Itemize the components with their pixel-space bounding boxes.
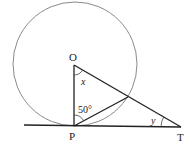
- label-O: O: [69, 51, 77, 63]
- label-angle-y: y: [150, 115, 156, 126]
- angle-arc-50: [74, 115, 84, 121]
- label-P: P: [69, 130, 75, 142]
- angle-arc-x: [74, 70, 83, 75]
- angle-arc-y: [161, 117, 164, 127]
- label-angle-50: 50°: [78, 104, 92, 115]
- label-angle-x: x: [80, 76, 86, 87]
- label-T: T: [177, 131, 184, 143]
- geometry-diagram: O P T x 50° y: [0, 0, 187, 152]
- tangent-line-PT: [24, 125, 181, 127]
- circle: [13, 2, 137, 126]
